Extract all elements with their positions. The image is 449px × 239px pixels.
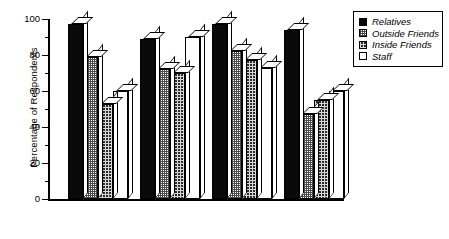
bar-front-face bbox=[68, 24, 83, 199]
legend-item-outside-friends: Outside Friends bbox=[359, 28, 438, 40]
bar-top-face bbox=[230, 44, 252, 51]
bar-top-face bbox=[71, 17, 93, 24]
bar-side-face bbox=[185, 60, 190, 199]
bar bbox=[284, 30, 299, 199]
bar-side-face bbox=[155, 25, 160, 199]
bar-front-face bbox=[212, 24, 227, 199]
bar-side-face bbox=[272, 54, 277, 199]
bar-top-face bbox=[287, 23, 309, 30]
y-tick-label: 0 bbox=[35, 194, 40, 204]
bar-top-face bbox=[260, 61, 282, 68]
bar-side-face bbox=[98, 43, 103, 199]
bar-side-face bbox=[128, 78, 133, 199]
plot-area: 020406080100 bbox=[48, 19, 344, 199]
y-tick-label: 40 bbox=[29, 122, 40, 132]
x-axis-line bbox=[48, 199, 344, 201]
chart-figure: Percentage of Respondents 020406080100 R… bbox=[0, 0, 449, 239]
y-tick-label: 100 bbox=[24, 14, 40, 24]
bar-group bbox=[68, 19, 128, 199]
bar-top-face bbox=[188, 30, 210, 37]
y-axis-title: Percentage of Respondents bbox=[28, 13, 39, 203]
bar-side-face bbox=[314, 101, 319, 199]
bar-front-face bbox=[284, 30, 299, 199]
bar bbox=[140, 39, 155, 199]
bar-top-face bbox=[215, 17, 237, 24]
bar-group bbox=[212, 19, 272, 199]
bar-side-face bbox=[329, 87, 334, 199]
bar-side-face bbox=[242, 38, 247, 199]
legend-item-inside-friends: Inside Friends bbox=[359, 39, 438, 51]
legend-label-staff: Staff bbox=[372, 52, 392, 62]
legend-label-outside-friends: Outside Friends bbox=[372, 29, 439, 39]
legend: Relatives Outside Friends Inside Friends… bbox=[353, 11, 443, 67]
bar-top-face bbox=[143, 32, 165, 39]
bar-side-face bbox=[170, 56, 175, 199]
y-tick-label: 20 bbox=[29, 158, 40, 168]
bar-side-face bbox=[113, 90, 118, 199]
legend-swatch-inside-friends bbox=[359, 41, 367, 49]
legend-label-relatives: Relatives bbox=[372, 17, 411, 27]
bar-side-face bbox=[83, 11, 88, 199]
bar-side-face bbox=[344, 78, 349, 199]
bar-side-face bbox=[257, 47, 262, 199]
bar-top-face bbox=[245, 53, 267, 60]
legend-swatch-outside-friends bbox=[359, 29, 367, 37]
bar-group bbox=[284, 19, 344, 199]
y-tick-label: 60 bbox=[29, 86, 40, 96]
bar-side-face bbox=[299, 16, 304, 199]
bar-side-face bbox=[227, 11, 232, 199]
legend-item-staff: Staff bbox=[359, 51, 438, 63]
bar-group bbox=[140, 19, 200, 199]
bar bbox=[212, 24, 227, 199]
bar-top-face bbox=[86, 50, 108, 57]
bar-side-face bbox=[200, 24, 205, 199]
y-tick-label: 80 bbox=[29, 50, 40, 60]
bar bbox=[68, 24, 83, 199]
bar-top-face bbox=[332, 84, 354, 91]
legend-item-relatives: Relatives bbox=[359, 16, 438, 28]
y-tick-major bbox=[42, 199, 48, 200]
bar-front-face bbox=[140, 39, 155, 199]
legend-swatch-relatives bbox=[359, 18, 367, 26]
legend-swatch-staff bbox=[359, 52, 367, 60]
legend-label-inside-friends: Inside Friends bbox=[372, 40, 432, 50]
bar-top-face bbox=[116, 84, 138, 91]
bar-groups bbox=[48, 19, 344, 199]
